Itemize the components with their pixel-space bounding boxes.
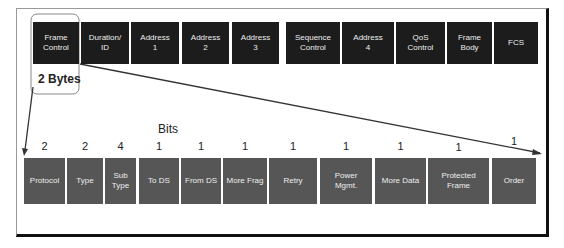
bit-count: 4 [105, 140, 136, 152]
bit-count: 1 [223, 140, 267, 152]
bit-count: 1 [492, 135, 536, 147]
subfield-more-frag: More Frag [223, 158, 267, 204]
bit-count: 1 [181, 140, 221, 152]
bit-count: 1 [428, 141, 489, 153]
field-address-1: Address 1 [131, 22, 179, 64]
field-fcs: FCS [494, 22, 538, 64]
subfield-more-data: More Data [375, 158, 426, 204]
field-address-2: Address 2 [182, 22, 229, 64]
field-frame-body: Frame Body [447, 22, 492, 64]
subfield-from-ds: From DS [181, 158, 221, 204]
subfield-to-ds: To DS [139, 158, 179, 204]
subfield-subtype: Sub Type [105, 158, 136, 204]
field-qos-control: QoS Control [396, 22, 445, 64]
subfield-power-mgmt: Power Mgmt. [320, 158, 372, 204]
field-address-4: Address 4 [342, 22, 394, 64]
subfield-protected-frame: Protected Frame [428, 158, 489, 204]
field-duration-id: Duration/ ID [81, 22, 129, 64]
field-address-3: Address 3 [232, 22, 279, 64]
bit-count: 1 [269, 140, 317, 152]
bit-count: 1 [375, 140, 426, 152]
subfield-retry: Retry [269, 158, 317, 204]
field-frame-control: Frame Control [33, 22, 79, 64]
bits-label: Bits [158, 122, 178, 136]
subfield-protocol: Protocol [24, 158, 65, 204]
bytes-label: 2 Bytes [38, 72, 81, 86]
subfield-order: Order [492, 158, 536, 204]
bit-count: 2 [67, 140, 103, 152]
bit-count: 2 [24, 140, 65, 152]
bit-count: 1 [320, 140, 372, 152]
field-sequence-control: Sequence Control [286, 22, 340, 64]
bit-count: 1 [139, 140, 179, 152]
subfield-type: Type [67, 158, 103, 204]
